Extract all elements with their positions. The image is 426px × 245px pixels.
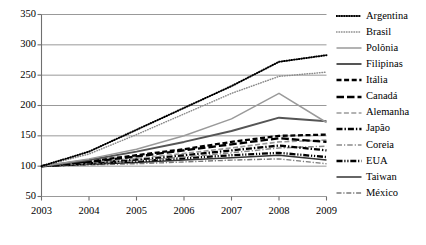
x-tick-label: 2006 <box>162 205 206 216</box>
legend-item[interactable]: México <box>336 185 426 201</box>
legend-line-swatch <box>336 27 362 37</box>
legend-line-swatch <box>336 75 362 85</box>
y-tick-label: 150 <box>5 129 36 140</box>
legend-label: Coreia <box>366 140 394 151</box>
legend-label: Alemanha <box>366 107 409 118</box>
y-tick-label: 200 <box>5 99 36 110</box>
legend-item[interactable]: Japão <box>336 121 426 137</box>
legend-label: Filipinas <box>366 59 403 70</box>
legend-line-swatch <box>336 92 362 102</box>
legend-line-swatch <box>336 11 362 21</box>
legend-label: México <box>366 188 398 199</box>
legend-item[interactable]: Itália <box>336 72 426 88</box>
legend-label: Japão <box>366 123 390 134</box>
y-tick-label: 350 <box>5 8 36 19</box>
legend-label: Argentina <box>366 11 408 22</box>
y-tick-label: 300 <box>5 38 36 49</box>
legend-line-swatch <box>336 172 362 182</box>
legend-label: Polônia <box>366 43 398 54</box>
legend-label: Itália <box>366 75 388 86</box>
x-tick-label: 2003 <box>20 205 64 216</box>
x-tick-label: 2009 <box>305 205 349 216</box>
legend-item[interactable]: Brasil <box>336 24 426 40</box>
legend-item[interactable]: Filipinas <box>336 56 426 72</box>
legend-label: EUA <box>366 156 388 167</box>
legend-line-swatch <box>336 108 362 118</box>
x-tick-label: 2005 <box>115 205 159 216</box>
legend-item[interactable]: EUA <box>336 153 426 169</box>
legend-item[interactable]: Coreia <box>336 137 426 153</box>
x-tick-label: 2007 <box>210 205 254 216</box>
legend-label: Canadá <box>366 91 398 102</box>
legend-item[interactable]: Taiwan <box>336 169 426 185</box>
y-tick-label: 250 <box>5 69 36 80</box>
legend-item[interactable]: Alemanha <box>336 105 426 121</box>
legend-label: Brasil <box>366 27 391 38</box>
legend-item[interactable]: Argentina <box>336 8 426 24</box>
legend-line-swatch <box>336 124 362 134</box>
legend-item[interactable]: Canadá <box>336 88 426 104</box>
x-tick-label: 2008 <box>257 205 301 216</box>
y-tick-label: 50 <box>5 190 36 201</box>
y-tick-label: 100 <box>5 160 36 171</box>
legend-line-swatch <box>336 140 362 150</box>
legend-line-swatch <box>336 156 362 166</box>
legend-label: Taiwan <box>366 172 397 183</box>
legend-line-swatch <box>336 59 362 69</box>
chart-root: 50100150200250300350 2003200420052006200… <box>0 0 426 245</box>
x-tick-label: 2004 <box>67 205 111 216</box>
chart-legend: ArgentinaBrasilPolôniaFilipinasItáliaCan… <box>336 8 426 201</box>
legend-line-swatch <box>336 188 362 198</box>
legend-item[interactable]: Polônia <box>336 40 426 56</box>
legend-line-swatch <box>336 43 362 53</box>
